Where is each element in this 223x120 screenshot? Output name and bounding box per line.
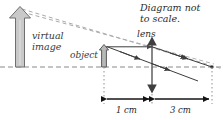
optics-ray-diagram: virtual image object lens Diagram not to… <box>0 0 223 120</box>
object-arrow <box>99 45 108 68</box>
object-label: object <box>70 50 98 60</box>
not-to-scale-note: Diagram not to scale. <box>140 3 200 24</box>
lens-label: lens <box>137 29 156 39</box>
virtual-image-label: virtual image <box>32 31 64 52</box>
virtual-image-arrow <box>10 7 31 68</box>
dimension-label-3cm: 3 cm <box>170 106 191 116</box>
dimension-label-1cm: 1 cm <box>116 106 137 116</box>
